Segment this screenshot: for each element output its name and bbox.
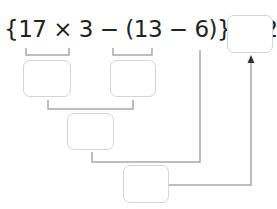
line-to-answer [169, 62, 251, 185]
bracket-combine [48, 100, 133, 109]
connector-lines [0, 0, 277, 209]
arrow-up-icon [248, 55, 255, 63]
bracket-13-6 [113, 48, 152, 55]
bracket-17x3 [26, 48, 69, 55]
line-from-subtract-to-divide [92, 50, 200, 162]
